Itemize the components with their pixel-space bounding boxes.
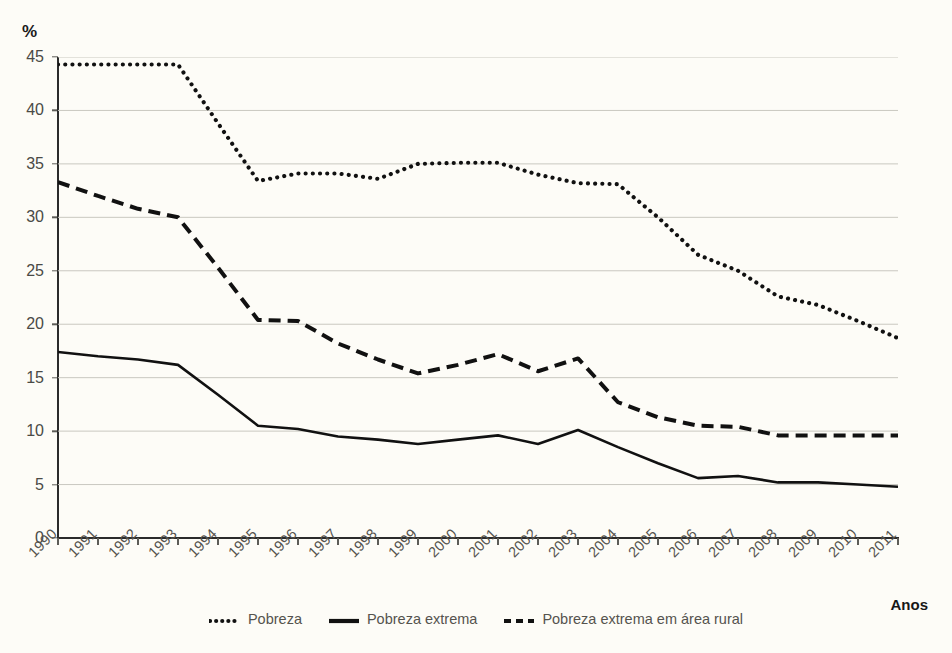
series-line-1: [58, 64, 898, 338]
x-axis-tick-mark: [417, 538, 418, 545]
series-line-3: [58, 182, 898, 435]
y-axis-tick-label: 35: [0, 155, 52, 173]
legend-swatch-dashed-icon: [503, 613, 535, 625]
series-canvas: [58, 57, 898, 538]
x-axis-tick-mark: [697, 538, 698, 545]
y-axis-tick-label: 25: [0, 262, 52, 280]
y-axis-tick-label: 10: [0, 422, 52, 440]
x-axis-tick-mark: [537, 538, 538, 545]
y-axis-tick-label: 30: [0, 208, 52, 226]
x-axis-tick-mark: [297, 538, 298, 545]
legend-label: Pobreza: [248, 611, 302, 627]
y-axis-tick-label: 0: [0, 529, 52, 547]
x-axis-tick-mark: [817, 538, 818, 545]
chart-legend: PobrezaPobreza extremaPobreza extrema em…: [0, 611, 952, 627]
legend-swatch-dotted-icon: [209, 613, 241, 625]
x-axis-tick-mark: [217, 538, 218, 545]
y-axis-tick-label: 15: [0, 369, 52, 387]
y-axis-tick-label: 40: [0, 101, 52, 119]
x-axis-tick-mark: [497, 538, 498, 545]
legend-item-2[interactable]: Pobreza extrema: [328, 611, 477, 627]
poverty-line-chart: % 051015202530354045 1990199119921993199…: [0, 0, 952, 653]
legend-item-1[interactable]: Pobreza: [209, 611, 302, 627]
plot-area: [58, 57, 898, 538]
y-axis-tick-label: 20: [0, 315, 52, 333]
legend-label: Pobreza extrema: [367, 611, 477, 627]
series-line-2: [58, 352, 898, 487]
x-axis-tick-mark: [177, 538, 178, 545]
x-axis-tick-mark: [137, 538, 138, 545]
x-axis-tick-mark: [857, 538, 858, 545]
y-axis-tick-label: 45: [0, 48, 52, 66]
legend-swatch-solid-icon: [328, 613, 360, 625]
x-axis-tick-mark: [337, 538, 338, 545]
x-axis-tick-mark: [377, 538, 378, 545]
y-axis-tick-column: 051015202530354045: [0, 0, 52, 653]
x-axis-tick-mark: [97, 538, 98, 545]
y-axis-tick-label: 5: [0, 476, 52, 494]
x-axis-tick-mark: [617, 538, 618, 545]
x-axis-tick-mark: [657, 538, 658, 545]
x-axis-tick-mark: [897, 538, 898, 545]
legend-label: Pobreza extrema em área rural: [542, 611, 743, 627]
x-axis-tick-mark: [577, 538, 578, 545]
legend-item-3[interactable]: Pobreza extrema em área rural: [503, 611, 743, 627]
x-axis-tick-mark: [257, 538, 258, 545]
x-axis-tick-mark: [777, 538, 778, 545]
x-axis-tick-mark: [737, 538, 738, 545]
x-axis-tick-mark: [457, 538, 458, 545]
x-axis-tick-mark: [57, 538, 58, 545]
